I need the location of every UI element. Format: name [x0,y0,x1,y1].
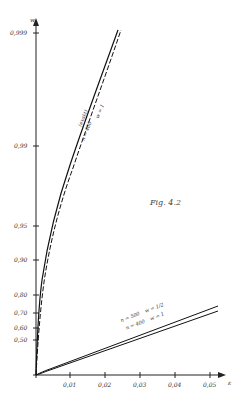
svg-text:0,50: 0,50 [14,336,28,343]
x-axis-label: ε [228,379,231,386]
series-upper-solid [36,30,118,375]
svg-text:w = 1: w = 1 [94,103,105,119]
svg-text:0,999: 0,999 [10,29,27,36]
svg-text:0,04: 0,04 [168,381,182,388]
chart: w ε 0,999 0,99 0,95 0,90 0,80 0,70 0,60 … [0,0,244,406]
x-ticks: 0,01 0,02 0,03 0,04 0,05 [63,372,217,388]
y-ticks: 0,999 0,99 0,95 0,90 0,80 0,70 0,60 0,50 [10,29,39,343]
svg-text:0,05: 0,05 [203,381,217,388]
y-axis-label: w [30,16,36,23]
upper-annotation: (exakt) n = 400 w = 1 [72,98,105,143]
figure-title: Fig. 4.2 [149,198,181,207]
svg-text:0,02: 0,02 [98,381,112,388]
series-upper-dashed [36,30,121,375]
svg-text:0,99: 0,99 [14,142,28,149]
svg-text:0,95: 0,95 [14,222,28,229]
svg-text:0,70: 0,70 [14,309,28,316]
svg-text:0,01: 0,01 [63,381,76,388]
svg-text:w = 1: w = 1 [149,311,165,322]
svg-text:0,80: 0,80 [14,291,28,298]
svg-text:0,60: 0,60 [14,324,28,331]
svg-text:0,03: 0,03 [133,381,147,388]
lower-annotation: n = 500 w = 1/2 n = 400 w = 1 [119,301,167,331]
svg-text:0,90: 0,90 [14,256,28,263]
x-axis-arrow-icon [218,372,226,378]
